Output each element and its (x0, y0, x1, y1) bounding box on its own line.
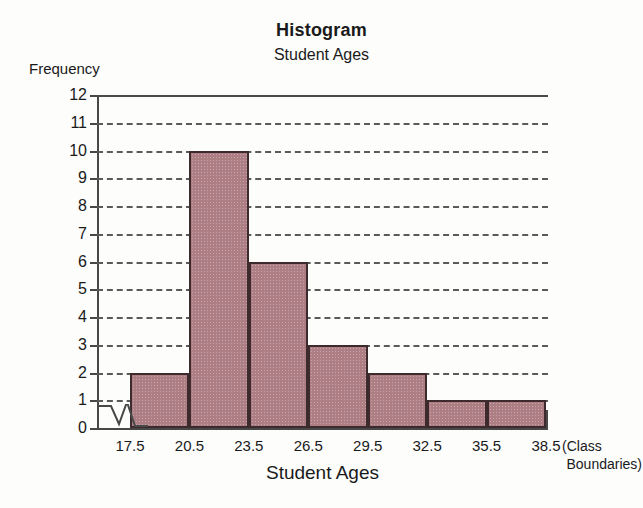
y-axis-tick-label: 9 (51, 170, 87, 186)
gridline (97, 262, 548, 264)
gridline (97, 151, 548, 153)
y-axis-tick (90, 123, 97, 125)
y-axis-tick-label: 0 (51, 420, 87, 436)
y-axis-tick-label: 11 (51, 115, 87, 131)
y-axis-label: Frequency (29, 60, 100, 77)
y-axis-tick-label: 4 (51, 309, 87, 325)
plot-top-line (97, 95, 548, 97)
gridline (97, 234, 548, 236)
y-axis-tick (90, 151, 97, 153)
gridline (97, 123, 548, 125)
x-axis-tick-label: 20.5 (159, 437, 219, 454)
histogram-bar (189, 151, 248, 429)
y-axis-tick-label: 3 (51, 337, 87, 353)
y-axis-tick-label: 6 (51, 254, 87, 270)
y-axis-tick-label: 2 (51, 365, 87, 381)
gridline (97, 317, 548, 319)
y-axis-tick (90, 262, 97, 264)
y-axis-tick-label: 10 (51, 143, 87, 159)
class-boundaries-note: (Class Boundaries) (562, 437, 643, 473)
x-axis-tick-label: 23.5 (219, 437, 279, 454)
plot-area: 1211109876543210 17.520.523.526.529.532.… (97, 95, 548, 430)
x-axis-tick-label: 17.5 (100, 437, 160, 454)
y-axis-tick-label: 8 (51, 198, 87, 214)
y-axis-tick (90, 289, 97, 291)
histogram-figure: Histogram Student Ages Frequency 1211109… (0, 0, 643, 508)
y-axis-tick (90, 178, 97, 180)
y-axis-tick (90, 373, 97, 375)
x-axis-tick-label: 35.5 (457, 437, 517, 454)
x-axis-tick-label: 26.5 (278, 437, 338, 454)
y-axis-tick-label: 7 (51, 226, 87, 242)
y-axis-tick (90, 317, 97, 319)
x-axis-end-tick (546, 410, 548, 430)
gridline (97, 206, 548, 208)
gridline (97, 178, 548, 180)
y-axis-tick (90, 95, 97, 97)
y-axis-tick-label: 5 (51, 281, 87, 297)
x-axis-tick-label: 32.5 (397, 437, 457, 454)
y-axis-tick (90, 206, 97, 208)
histogram-bar (249, 262, 308, 429)
x-axis-title: Student Ages (97, 462, 548, 484)
histogram-bar (427, 400, 486, 428)
y-axis-tick (90, 345, 97, 347)
class-note-line-1: (Class (562, 438, 602, 454)
class-note-line-2: Boundaries) (562, 455, 643, 473)
chart-title: Histogram (0, 20, 643, 41)
y-axis-tick-label: 12 (51, 87, 87, 103)
y-axis-tick (90, 234, 97, 236)
x-axis-tick-label: 29.5 (338, 437, 398, 454)
histogram-bar (368, 373, 427, 429)
y-axis-tick (90, 428, 97, 430)
histogram-bar (308, 345, 367, 428)
x-axis-line (97, 428, 548, 430)
y-axis-tick-label: 1 (51, 392, 87, 408)
y-axis-tick (90, 400, 97, 402)
axis-break-icon (97, 404, 149, 434)
histogram-bar (487, 400, 546, 428)
gridline (97, 289, 548, 291)
